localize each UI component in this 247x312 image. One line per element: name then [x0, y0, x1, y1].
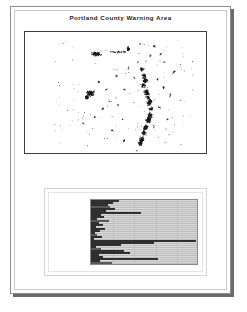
chart-panel: [44, 188, 207, 276]
chart-x-tick-labels: [90, 266, 198, 269]
page-title: Portland County Warning Area: [18, 14, 223, 22]
chart-card: [48, 192, 203, 272]
map-point-layer: [25, 32, 206, 153]
chart-category-labels: [55, 199, 89, 265]
chart-plot-area: [90, 199, 198, 265]
report-page: Portland County Warning Area: [0, 0, 247, 312]
map-canvas: [25, 32, 206, 153]
map-panel: [24, 31, 207, 154]
chart-bars: [91, 200, 197, 264]
